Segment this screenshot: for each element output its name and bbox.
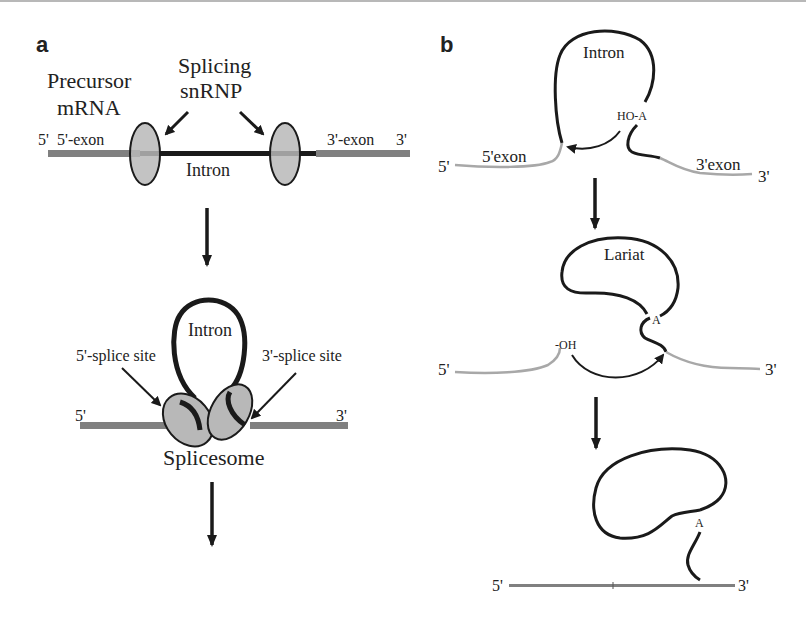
three-prime-end-b3: 3' bbox=[738, 577, 749, 594]
branch-site-attack-step: Intron HO-A 5' 5'exon 3'exon 3' bbox=[438, 31, 770, 186]
intron-3prime-tail bbox=[628, 125, 660, 158]
five-prime-end-b3: 5' bbox=[492, 577, 503, 594]
snrnp-label-line2: snRNP bbox=[180, 78, 242, 103]
three-prime-end: 3' bbox=[396, 131, 407, 148]
precursor-mrna-step: Precursor mRNA Splicing snRNP 5' 5'-exon… bbox=[38, 53, 410, 185]
five-exon-label: 5'-exon bbox=[57, 131, 104, 148]
ligated-exons-step: A 5' 3' bbox=[492, 449, 749, 594]
splicesome-label: Splicesome bbox=[163, 445, 264, 470]
precursor-label-line2: mRNA bbox=[57, 95, 121, 120]
three-exon-bar-2 bbox=[250, 422, 348, 429]
five-prime-end-2: 5' bbox=[75, 407, 86, 424]
nucleophilic-attack-arrow-1 bbox=[568, 131, 620, 149]
hoa-label: HO-A bbox=[617, 109, 647, 123]
snrnp-arrow-right bbox=[240, 112, 263, 134]
five-exon-label-b: 5'exon bbox=[482, 147, 527, 166]
panel-a-label: a bbox=[36, 32, 49, 57]
branch-a-label: A bbox=[652, 313, 661, 327]
lariat-tail-2 bbox=[687, 532, 700, 580]
intron-label-b: Intron bbox=[583, 43, 625, 62]
splicing-diagram: a Precursor mRNA Splicing snRNP 5' 5'-ex… bbox=[0, 0, 806, 617]
panel-b: b Intron HO-A 5' 5'exon 3'exon 3' Lariat… bbox=[438, 31, 777, 594]
five-splice-site-label: 5'-splice site bbox=[76, 347, 156, 365]
intron-label: Intron bbox=[186, 160, 230, 180]
snrnp-label-line1: Splicing bbox=[178, 53, 251, 78]
five-exon-line-b2 bbox=[455, 348, 560, 373]
spliceosome-step: Intron 5'-splice site 3'-splice site 5' … bbox=[75, 300, 348, 470]
lariat-formation-step: Lariat A -OH 5' 3' bbox=[438, 238, 777, 379]
three-splice-site-label: 3'-splice site bbox=[262, 347, 342, 365]
three-exon-label: 3'-exon bbox=[327, 131, 374, 148]
five-splice-site-arrow bbox=[122, 368, 160, 405]
five-exon-bar bbox=[48, 150, 140, 157]
oh-label: -OH bbox=[555, 338, 577, 352]
five-prime-end-b2: 5' bbox=[438, 360, 450, 379]
three-prime-end-b: 3' bbox=[758, 167, 770, 186]
three-exon-bar bbox=[316, 150, 410, 157]
precursor-label-line1: Precursor bbox=[47, 68, 132, 93]
snrnp-arrow-left bbox=[166, 112, 188, 134]
three-prime-end-2: 3' bbox=[336, 407, 347, 424]
three-exon-label-b: 3'exon bbox=[696, 155, 741, 174]
five-prime-end-b: 5' bbox=[438, 157, 450, 176]
panel-a: a Precursor mRNA Splicing snRNP 5' 5'-ex… bbox=[36, 32, 410, 545]
three-exon-line-b2 bbox=[666, 352, 760, 369]
excised-lariat bbox=[594, 449, 726, 538]
branch-a-label-2: A bbox=[695, 516, 704, 530]
panel-b-label: b bbox=[440, 32, 453, 57]
nucleophilic-attack-arrow-2 bbox=[572, 355, 663, 378]
intron-loop-label: Intron bbox=[188, 320, 232, 340]
five-prime-end: 5' bbox=[38, 131, 49, 148]
snrnp-right bbox=[270, 123, 300, 185]
three-splice-site-arrow bbox=[252, 373, 296, 418]
snrnp-left bbox=[130, 123, 160, 185]
ligated-mrna-bar bbox=[509, 584, 735, 587]
intron-loop bbox=[174, 300, 245, 398]
lariat-label: Lariat bbox=[604, 245, 645, 264]
three-prime-end-b2: 3' bbox=[765, 360, 777, 379]
